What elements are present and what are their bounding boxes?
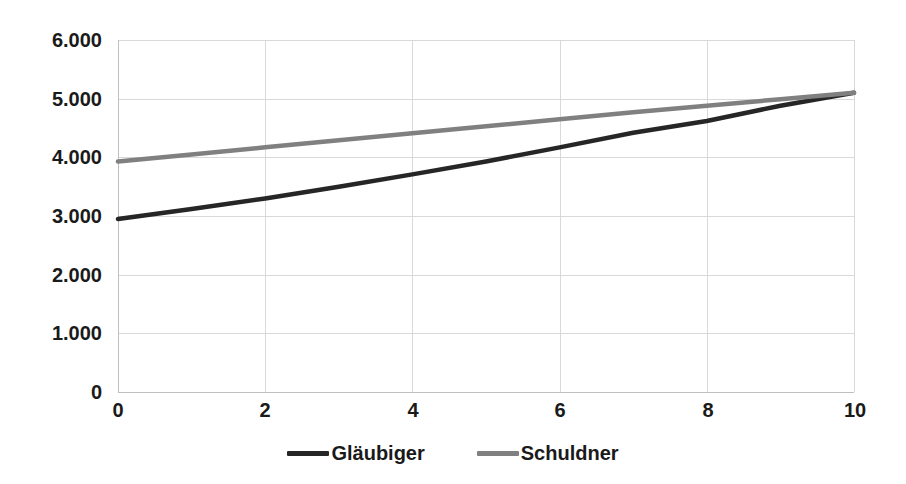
x-tick-label-8: 8	[678, 400, 738, 420]
legend-item-glaeubiger[interactable]: Gläubiger	[287, 443, 424, 463]
y-tick-label-4000: 4.000	[18, 147, 102, 167]
y-tick-label-3000: 3.000	[18, 206, 102, 226]
series-lines-group	[118, 93, 854, 219]
x-tick-label-10: 10	[825, 400, 885, 420]
y-tick-label-0: 0	[18, 382, 102, 402]
legend-color-swatch-glaeubiger	[287, 451, 329, 456]
y-tick-label-2000: 2.000	[18, 265, 102, 285]
chart-legend: Gläubiger Schuldner	[0, 438, 906, 468]
x-tick-label-0: 0	[88, 400, 148, 420]
y-tick-label-1000: 1.000	[18, 323, 102, 343]
y-tick-label-6000: 6.000	[18, 30, 102, 50]
gridlines-group	[118, 40, 855, 393]
series-line-gl-ubiger	[118, 93, 854, 219]
x-tick-label-4: 4	[383, 400, 443, 420]
x-tick-label-2: 2	[235, 400, 295, 420]
legend-label-glaeubiger: Gläubiger	[331, 443, 424, 463]
series-line-schuldner	[118, 93, 854, 162]
x-tick-label-6: 6	[530, 400, 590, 420]
y-tick-label-5000: 5.000	[18, 89, 102, 109]
legend-label-schuldner: Schuldner	[521, 443, 619, 463]
chart-figure: 6.000 5.000 4.000 3.000 2.000 1.000 0 0 …	[0, 0, 906, 484]
legend-color-swatch-schuldner	[477, 451, 519, 456]
legend-item-schuldner[interactable]: Schuldner	[477, 443, 619, 463]
